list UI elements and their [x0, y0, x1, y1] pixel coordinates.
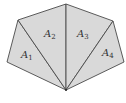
apex-vertex — [65, 89, 67, 91]
triangulated-polygon-diagram: A1 A2 A3 A4 — [0, 0, 126, 103]
